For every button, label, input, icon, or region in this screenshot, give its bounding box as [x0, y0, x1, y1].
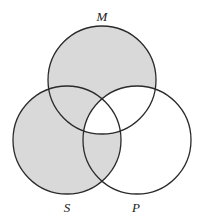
shaded-regions — [13, 26, 156, 194]
set-s-label: S — [64, 200, 71, 215]
venn-diagram: M S P — [0, 0, 201, 220]
set-m-label: M — [96, 9, 109, 24]
set-p-label: P — [131, 200, 140, 215]
